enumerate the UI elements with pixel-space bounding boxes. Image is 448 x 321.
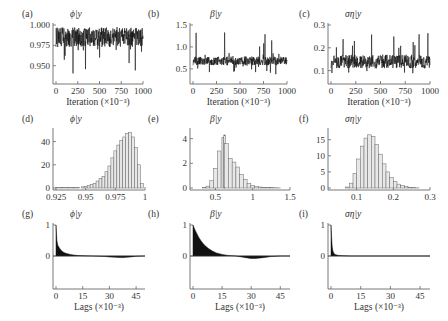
x-tick-label: 45 <box>132 291 142 301</box>
trace-line <box>193 33 287 75</box>
histogram-bar <box>382 164 386 188</box>
panel-title: β|y <box>209 9 222 19</box>
panel-e: (e)β|y0240.511.5 <box>148 114 296 202</box>
histogram-bar <box>353 174 357 189</box>
y-tick-label: 10 <box>316 151 326 161</box>
x-axis-label: Iteration (×10⁻³) <box>347 97 411 108</box>
histogram-bar <box>210 181 214 188</box>
panel-title: ση|y <box>345 114 362 124</box>
y-tick-label: 15 <box>316 135 326 145</box>
histogram-bar <box>243 179 247 188</box>
acf-area <box>193 225 290 259</box>
histogram-bar <box>368 135 372 188</box>
x-tick-label: 30 <box>105 291 115 301</box>
x-tick-label: 30 <box>386 291 396 301</box>
x-tick-label: 250 <box>71 86 85 96</box>
histogram-bar <box>102 176 105 188</box>
histogram-bar <box>117 145 120 188</box>
panel-h: (h)β|y010153045Lags (×10⁻³) <box>148 209 290 313</box>
histogram-bar <box>232 162 236 188</box>
x-tick-label: 30 <box>247 291 257 301</box>
histogram-bar <box>379 154 383 188</box>
y-tick-label: 0.950 <box>30 61 51 71</box>
histogram-bar <box>217 151 221 188</box>
x-tick-label: 0.5 <box>210 192 222 202</box>
y-tick-label: 0 <box>321 183 326 193</box>
y-tick-label: 1.5 <box>176 20 188 30</box>
x-axis-label: Iteration (×10⁻³) <box>207 97 271 108</box>
histogram-bar <box>408 187 412 188</box>
histogram-bar <box>375 145 379 189</box>
panel-label: (g) <box>22 209 33 220</box>
y-tick-label: 1.0 <box>176 42 188 52</box>
x-tick-label: 0 <box>329 86 334 96</box>
panel-a: (a)ϕ|y0.9500.9751.00002505007501000Itera… <box>22 9 153 108</box>
x-tick-label: 0 <box>54 86 59 96</box>
y-tick-label: 4 <box>183 134 188 144</box>
panel-label: (h) <box>148 209 159 220</box>
histogram-bar <box>96 181 99 188</box>
histogram-bar <box>126 133 129 188</box>
histogram-bar <box>255 187 259 188</box>
histogram-bar <box>251 186 255 188</box>
y-tick-label: 0.975 <box>30 40 51 50</box>
x-tick-label: 750 <box>115 86 129 96</box>
histogram-bar <box>371 136 375 188</box>
histogram-bar <box>93 183 96 188</box>
panel-label: (c) <box>299 9 310 20</box>
panel-title: β|y <box>209 209 222 219</box>
histogram-bar <box>214 168 218 188</box>
x-tick-label: 250 <box>349 86 363 96</box>
histogram-bar <box>240 174 244 188</box>
acf-area <box>331 225 430 256</box>
x-tick-label: 15 <box>78 291 88 301</box>
histogram-bar <box>397 184 401 188</box>
histogram-bar <box>84 186 87 188</box>
x-axis-label: Iteration (×10⁻³) <box>66 97 130 108</box>
y-tick-label: 2 <box>183 158 188 168</box>
histogram-bar <box>258 187 262 188</box>
x-tick-label: 0 <box>54 291 59 301</box>
y-tick-label: 0.3 <box>314 20 326 30</box>
panel-c: (c)ση|y0.10.20.302505007501000Iteration … <box>299 9 440 108</box>
y-tick-label: 5 <box>321 167 326 177</box>
histogram-bar <box>129 132 132 188</box>
histogram-bar <box>111 158 114 188</box>
histogram-bar <box>404 187 408 188</box>
y-tick-label: 0 <box>183 183 188 193</box>
panel-label: (i) <box>299 209 308 220</box>
histogram-bar <box>105 172 108 188</box>
histogram-bar <box>390 178 394 188</box>
histogram-bar <box>135 147 138 188</box>
panel-d: (d)ϕ|y020400.9250.950.9751 <box>22 114 147 202</box>
y-tick-label: 20 <box>41 160 51 170</box>
y-tick-label: 1 <box>46 220 51 230</box>
histogram-bar <box>114 151 117 188</box>
x-tick-label: 1000 <box>134 86 153 96</box>
panel-title: β|y <box>209 114 222 124</box>
x-tick-label: 500 <box>374 86 388 96</box>
histogram-bar <box>202 187 206 188</box>
x-tick-label: 1000 <box>421 86 440 96</box>
x-tick-label: 500 <box>233 86 247 96</box>
histogram-bar <box>360 146 364 188</box>
histogram-bar <box>81 187 84 188</box>
x-tick-label: 0.1 <box>351 192 362 202</box>
y-tick-label: 40 <box>41 137 51 147</box>
y-tick-label: 0.1 <box>314 66 325 76</box>
histogram-bar <box>123 137 126 188</box>
histogram-bar <box>228 158 232 188</box>
x-tick-label: 0.975 <box>105 192 126 202</box>
x-tick-label: 1 <box>143 192 148 202</box>
y-tick-label: 0 <box>321 251 326 261</box>
x-tick-label: 750 <box>257 86 271 96</box>
panel-title: ϕ|y <box>70 9 83 19</box>
histogram-bar <box>138 165 141 188</box>
trace-line <box>331 33 430 73</box>
histogram-bar <box>247 184 251 188</box>
y-tick-label: 0 <box>183 251 188 261</box>
histogram-bar <box>222 137 224 188</box>
x-tick-label: 45 <box>416 291 426 301</box>
histogram-bar <box>87 186 90 188</box>
x-axis-label: Lags (×10⁻³) <box>74 302 124 313</box>
